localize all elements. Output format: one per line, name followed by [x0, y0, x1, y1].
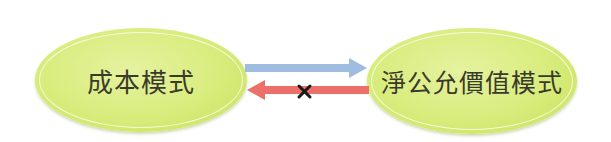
node-label: 淨公允價值模式: [381, 63, 563, 99]
node-label: 成本模式: [87, 62, 195, 99]
arrow-forward-icon: [245, 58, 367, 78]
